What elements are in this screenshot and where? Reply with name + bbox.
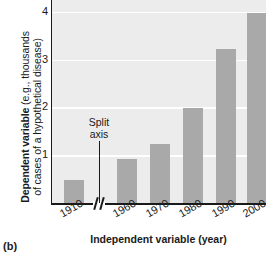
x-axis-title: Independent variable (year): [51, 233, 266, 245]
gridline-4: [52, 12, 266, 14]
y-axis-tick-3: 3: [30, 54, 48, 65]
plot-area: [51, 0, 266, 204]
bar-1960: [117, 159, 137, 204]
split-axis-annotation-line1: Split: [76, 116, 122, 128]
bar-1990: [216, 49, 236, 204]
split-axis-leader-line: [99, 141, 101, 203]
y-axis-tick-4: 4: [30, 6, 48, 17]
y-axis-tick-1: 1: [30, 149, 48, 160]
y-axis-tick-2: 2: [30, 101, 48, 112]
split-axis-annotation: Split axis: [76, 116, 122, 140]
panel-caption: (b): [3, 240, 17, 252]
bar-1980: [183, 108, 203, 204]
y-axis-tick-labels: 1234: [30, 0, 48, 210]
bar-chart-figure: Dependent variable (e.g., thousands of c…: [0, 0, 266, 259]
split-axis-annotation-line2: axis: [76, 128, 122, 140]
bar-1970: [150, 144, 170, 204]
bar-2000: [247, 13, 266, 204]
